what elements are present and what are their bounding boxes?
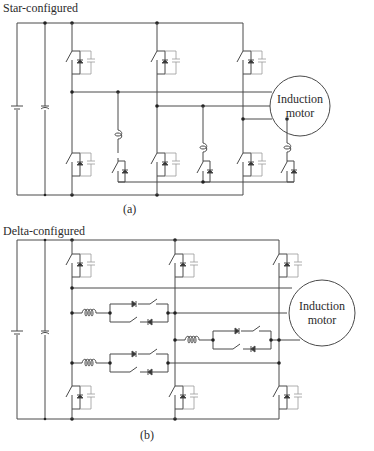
switch-icon (151, 48, 180, 74)
inductor-icon (284, 143, 291, 152)
phase-lines (72, 288, 292, 363)
switch-icon (237, 150, 266, 176)
motor-label-a: Induction motor (272, 92, 328, 120)
figure-a-title: Star-configured (3, 1, 78, 16)
switch-icon (151, 150, 180, 176)
battery-icon (11, 106, 23, 109)
switch-icon (169, 383, 198, 409)
motor-label-line1: Induction (272, 92, 328, 106)
motor-label-line1: Induction (293, 299, 351, 313)
motor-label-line2: motor (272, 106, 328, 120)
aux-switch-icon (197, 158, 213, 182)
switch-icon (237, 48, 266, 74)
aux-switch-icon (110, 349, 168, 375)
inductor-icon (115, 130, 122, 139)
switch-icon (273, 251, 302, 277)
inductor-icon (82, 359, 96, 366)
aux-switch-icon (213, 326, 271, 352)
switch-icon (66, 383, 95, 409)
inductor-icon (185, 336, 199, 343)
aux-switch-icon (110, 299, 168, 325)
phase-lines (72, 92, 272, 119)
switch-icon (169, 251, 198, 277)
figure-b-caption: (b) (140, 428, 154, 443)
delta-configured-circuit (11, 238, 355, 421)
switch-icon (66, 150, 95, 176)
dc-rails (17, 240, 279, 419)
aux-branches (118, 92, 287, 158)
inductor-icon (82, 309, 96, 316)
motor-label-b: Induction motor (293, 299, 351, 327)
aux-switch-icon (281, 158, 297, 182)
battery-icon (11, 331, 23, 334)
switch-icon (66, 251, 95, 277)
aux-switch-icon (112, 158, 128, 182)
capacitor-icon (41, 106, 49, 109)
switch-icon (273, 383, 302, 409)
motor-label-line2: motor (293, 313, 351, 327)
figure-b-title: Delta-configured (3, 224, 85, 239)
switch-icon (66, 48, 95, 74)
inductor-icon (200, 143, 207, 152)
figure-a-caption: (a) (123, 202, 136, 217)
capacitor-icon (41, 331, 49, 334)
dc-rails (17, 23, 243, 195)
